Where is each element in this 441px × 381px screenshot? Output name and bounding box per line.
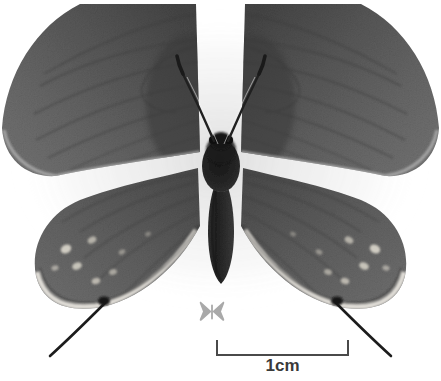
butterfly-icon-glyph [199, 300, 225, 324]
scale-bar: 1cm [210, 338, 355, 381]
specimen-plate: 1cm [0, 0, 441, 381]
scale-bar-bracket [217, 340, 348, 356]
butterfly-icon [199, 300, 225, 324]
scale-bar-label: 1cm [210, 356, 355, 376]
